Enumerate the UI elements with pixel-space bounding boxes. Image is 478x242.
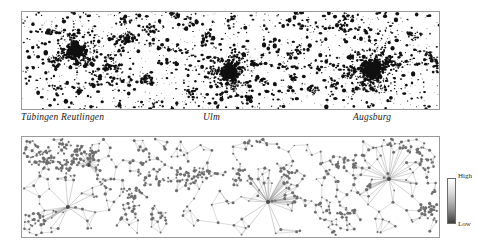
network-graph-svg: [22, 137, 439, 237]
density-colorbar: High Low: [443, 168, 477, 234]
network-graph-map: [21, 136, 440, 238]
colorbar-low-label: Low: [458, 220, 471, 228]
settlement-dots-svg: [22, 12, 439, 109]
settlement-density-map: [21, 11, 440, 110]
colorbar-gradient: [447, 178, 456, 224]
colorbar-high-label: High: [458, 172, 472, 180]
city-label-tuebingen-reutlingen: Tübingen Reutlingen: [21, 112, 104, 122]
figure-container: Tübingen Reutlingen Ulm Augsburg High Lo…: [0, 0, 478, 242]
city-label-row: Tübingen Reutlingen Ulm Augsburg: [21, 112, 440, 126]
city-label-augsburg: Augsburg: [353, 112, 391, 122]
city-label-ulm: Ulm: [203, 112, 220, 122]
settlement-map-canvas: [22, 12, 439, 109]
network-graph-canvas: [22, 137, 439, 237]
